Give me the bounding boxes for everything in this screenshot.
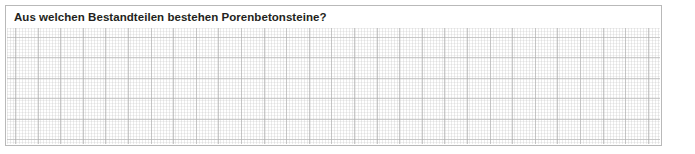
cropped-line-above: ▪ ▪ ▪ [0,0,695,4]
question-title: Aus welchen Bestandteilen bestehen Poren… [14,10,661,24]
question-header: Aus welchen Bestandteilen bestehen Poren… [6,6,661,28]
answer-grid-area[interactable] [7,28,660,144]
question-card: Aus welchen Bestandteilen bestehen Poren… [5,5,662,146]
cropped-line-above-fragment: ▪ ▪ ▪ [8,0,28,3]
grid-lines [7,28,660,144]
